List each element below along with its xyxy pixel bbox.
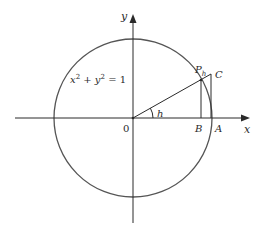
- point-P-dot: [200, 79, 203, 82]
- unit-circle-diagram: y x 0 h B A C Ph x2 + y2 = 1: [0, 0, 264, 233]
- y-axis-label: y: [120, 10, 128, 23]
- angle-label: h: [157, 108, 163, 119]
- point-B-label: B: [194, 123, 202, 134]
- diagram-svg: y x 0 h B A C Ph x2 + y2 = 1: [0, 0, 264, 233]
- angle-arc: [150, 108, 153, 118]
- origin-label: 0: [123, 123, 129, 134]
- origin-dot: [132, 117, 135, 120]
- circle-equation: x2 + y2 = 1: [70, 73, 126, 85]
- x-axis-arrow-icon: [241, 115, 250, 122]
- ray-OC: [133, 74, 211, 118]
- y-axis-arrow-icon: [130, 14, 137, 23]
- x-axis-label: x: [244, 123, 251, 136]
- point-C-label: C: [215, 69, 223, 80]
- point-A-label: A: [214, 123, 222, 134]
